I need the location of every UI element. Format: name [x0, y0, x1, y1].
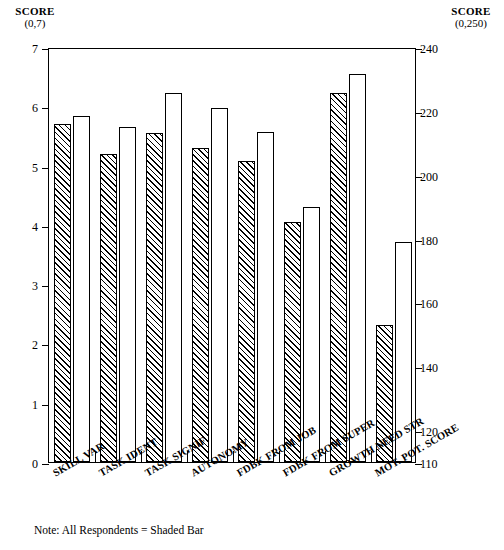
bar-open	[73, 116, 91, 462]
chart-note: Note: All Respondents = Shaded Bar	[34, 524, 204, 536]
bar-shaded	[100, 154, 118, 462]
bar-shaded	[330, 93, 348, 462]
bar-group	[95, 49, 141, 462]
right-axis-range: (0,250)	[440, 18, 502, 30]
left-tick-mark	[42, 168, 49, 169]
left-tick-label: 3	[8, 280, 38, 292]
left-axis-range: (0,7)	[4, 18, 66, 30]
bar-group	[325, 49, 371, 462]
bar-group	[371, 49, 417, 462]
right-tick-label: 220	[420, 107, 456, 119]
bar-open	[349, 74, 367, 462]
bar-group	[187, 49, 233, 462]
left-tick-mark	[42, 227, 49, 228]
left-tick-label: 7	[8, 43, 38, 55]
left-tick-label: 4	[8, 221, 38, 233]
left-tick-mark	[42, 405, 49, 406]
plot-area: 01234567 110120140160180200220240	[48, 48, 416, 463]
left-tick-label: 1	[8, 399, 38, 411]
left-axis-title: SCORE	[4, 6, 66, 18]
left-tick-mark	[42, 286, 49, 287]
left-tick-label: 6	[8, 102, 38, 114]
right-tick-label: 160	[420, 298, 456, 310]
left-tick-mark	[42, 345, 49, 346]
right-axis-title: SCORE	[440, 6, 502, 18]
right-tick-label: 110	[420, 458, 456, 470]
bar-shaded	[146, 133, 164, 462]
right-tick-label: 140	[420, 362, 456, 374]
bar-open	[211, 108, 229, 462]
right-tick-label: 240	[420, 43, 456, 55]
bar-shaded	[284, 222, 302, 462]
bar-group	[279, 49, 325, 462]
bar-open	[165, 93, 183, 462]
bar-open	[257, 132, 275, 462]
right-tick-label: 200	[420, 171, 456, 183]
left-tick-mark	[42, 49, 49, 50]
right-axis-caption: SCORE (0,250)	[440, 6, 502, 29]
left-tick-mark	[42, 108, 49, 109]
bar-group	[49, 49, 95, 462]
bar-group	[233, 49, 279, 462]
left-tick-label: 5	[8, 162, 38, 174]
bar-shaded	[54, 124, 72, 462]
bar-shaded	[238, 161, 256, 462]
left-tick-mark	[42, 464, 49, 465]
bar-group	[141, 49, 187, 462]
left-axis-caption: SCORE (0,7)	[4, 6, 66, 29]
left-tick-label: 0	[8, 458, 38, 470]
chart-root: SCORE (0,7) SCORE (0,250) 01234567 11012…	[0, 0, 504, 550]
bar-shaded	[192, 148, 210, 462]
left-tick-label: 2	[8, 339, 38, 351]
right-tick-label: 180	[420, 235, 456, 247]
bar-open	[119, 127, 137, 462]
